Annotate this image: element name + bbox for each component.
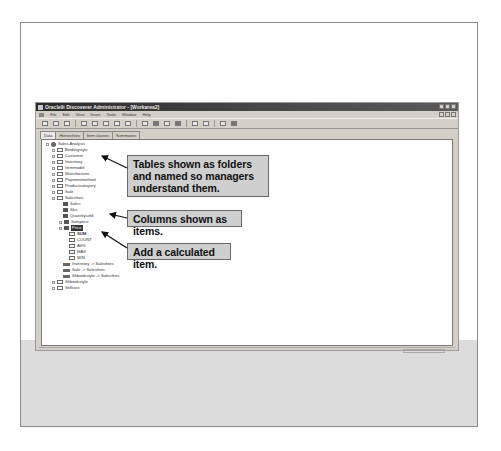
folder-icon (57, 154, 63, 158)
properties-icon[interactable] (164, 121, 170, 126)
zoom-icon[interactable] (220, 121, 226, 126)
folder-icon (57, 184, 63, 188)
toolbar-separator (186, 120, 187, 127)
toolbar-separator (214, 120, 215, 127)
open-folder-icon (57, 196, 63, 200)
workarea-tabs: Data Hierarchies Item classes Summaries (40, 131, 139, 139)
aggregate-icon (69, 244, 75, 248)
folder-icon (57, 172, 63, 176)
new-folder-icon[interactable] (81, 121, 87, 126)
copy-icon[interactable] (53, 121, 59, 126)
expand-icon[interactable] (52, 287, 55, 290)
help-icon[interactable] (175, 121, 181, 126)
join-icon (63, 263, 70, 266)
refresh-icon[interactable] (153, 121, 159, 126)
callout-calculated: Add a calculated item. (127, 243, 231, 260)
expand-icon[interactable] (52, 173, 55, 176)
hierarchy-icon[interactable] (125, 121, 131, 126)
folder-icon (57, 148, 63, 152)
tab-item-classes[interactable]: Item classes (83, 131, 113, 139)
menu-edit[interactable]: Edit (63, 112, 70, 117)
collapse-icon[interactable] (46, 143, 49, 146)
print-icon[interactable] (231, 121, 237, 126)
filter-icon[interactable] (114, 121, 120, 126)
toolbar-separator (136, 120, 137, 127)
folder-icon (57, 280, 63, 284)
menu-view[interactable]: View (76, 112, 85, 117)
expand-icon[interactable] (52, 167, 55, 170)
expand-icon[interactable] (52, 149, 55, 152)
menu-bar: File Edit View Insert Tools Window Help (36, 111, 458, 118)
collapse-icon[interactable] (59, 227, 62, 230)
doc-minimize-button[interactable] (439, 112, 444, 117)
minimize-button[interactable] (439, 104, 444, 109)
toolbar-separator (75, 120, 76, 127)
callout-tables: Tables shown as folders and named so man… (127, 155, 269, 197)
item-icon (63, 208, 68, 212)
application-window: Oracle9i Discoverer Administrator - [Wor… (35, 102, 459, 351)
doc-close-button[interactable] (451, 112, 456, 117)
paste-icon[interactable] (64, 121, 70, 126)
folder-icon (57, 178, 63, 182)
menu-help[interactable]: Help (142, 112, 150, 117)
expand-icon[interactable] (52, 185, 55, 188)
expand-icon[interactable] (52, 155, 55, 158)
item-icon (63, 202, 68, 206)
export-icon[interactable] (203, 121, 209, 126)
tab-summaries[interactable]: Summaries (112, 131, 140, 139)
aggregate-icon (69, 250, 75, 254)
expand-icon[interactable] (52, 179, 55, 182)
title-bar[interactable]: Oracle9i Discoverer Administrator - [Wor… (36, 103, 458, 111)
tab-hierarchies[interactable]: Hierarchies (55, 131, 83, 139)
item-icon (64, 220, 69, 224)
join-icon (63, 275, 70, 278)
aggregate-icon (69, 256, 75, 260)
toolbar (36, 118, 458, 129)
aggregate-icon (69, 232, 75, 236)
close-button[interactable] (451, 104, 456, 109)
callout-columns: Columns shown as items. (127, 210, 242, 227)
expand-icon[interactable] (52, 161, 55, 164)
business-area-icon (51, 142, 56, 147)
menu-window[interactable]: Window (122, 112, 136, 117)
collapse-icon[interactable] (52, 197, 55, 200)
new-item-icon[interactable] (92, 121, 98, 126)
delete-icon[interactable] (42, 121, 48, 126)
doc-restore-button[interactable] (445, 112, 450, 117)
status-bar (39, 347, 455, 351)
status-panel (403, 349, 445, 353)
expand-icon[interactable] (52, 191, 55, 194)
maximize-button[interactable] (445, 104, 450, 109)
folder-icon (57, 286, 63, 290)
folder-icon (57, 166, 63, 170)
document-icon (39, 113, 44, 117)
import-icon[interactable] (192, 121, 198, 126)
app-icon (38, 105, 43, 110)
window-title: Oracle9i Discoverer Administrator - [Wor… (45, 104, 159, 110)
join-icon (63, 269, 70, 272)
tree-folder[interactable]: Stillcost (52, 285, 79, 291)
item-icon (63, 214, 68, 218)
menu-tools[interactable]: Tools (107, 112, 116, 117)
aggregate-icon (69, 238, 75, 242)
item-icon (64, 226, 69, 230)
folder-icon (57, 160, 63, 164)
expand-icon[interactable] (52, 281, 55, 284)
tab-data[interactable]: Data (40, 131, 56, 139)
menu-file[interactable]: File (50, 112, 56, 117)
new-join-icon[interactable] (103, 121, 109, 126)
folder-icon (57, 190, 63, 194)
expand-icon[interactable] (59, 221, 62, 224)
wand-icon[interactable] (142, 121, 148, 126)
menu-insert[interactable]: Insert (90, 112, 100, 117)
